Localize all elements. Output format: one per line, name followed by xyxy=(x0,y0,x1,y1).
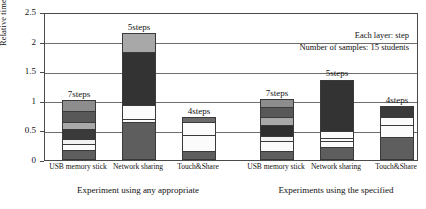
bar xyxy=(260,99,294,160)
group-caption: Experiments using the specified xyxy=(236,185,426,195)
bar-segment xyxy=(63,122,95,129)
y-axis-tick-label: 0.5 xyxy=(10,126,36,135)
bar-segment xyxy=(321,147,353,159)
bar xyxy=(182,117,216,160)
y-axis-tick-label: 0 xyxy=(10,156,36,165)
bar-segment xyxy=(63,111,95,122)
y-axis-tick-label: 1.5 xyxy=(10,67,36,76)
bar-segment xyxy=(123,105,155,118)
bar-step-annotation: 5steps xyxy=(307,69,367,78)
bar-segment xyxy=(123,52,155,106)
group-caption: Experiment using any appropriate xyxy=(38,185,238,195)
bar-step-annotation: 7steps xyxy=(49,90,109,99)
bar-segment xyxy=(261,107,293,117)
stacked-bar-chart: Relative time taken 00.511.522.5 7steps5… xyxy=(0,0,426,209)
bar-segment xyxy=(381,137,413,159)
bar-step-annotation: 5steps xyxy=(109,23,169,32)
bar-segment xyxy=(381,107,413,118)
y-axis-tick-label: 2 xyxy=(10,38,36,47)
bar-segment xyxy=(381,117,413,124)
gridline xyxy=(45,102,417,103)
legend-note-samples: Number of samples: 15 students xyxy=(299,41,409,53)
bar-segment xyxy=(183,122,215,135)
bar-segment xyxy=(381,125,413,138)
bar xyxy=(122,33,156,160)
bar xyxy=(62,100,96,160)
bar-segment xyxy=(321,131,353,138)
bar-segment xyxy=(63,129,95,139)
legend: Each layer: step Number of samples: 15 s… xyxy=(299,29,409,53)
bar-segment xyxy=(261,125,293,136)
bar-segment xyxy=(123,122,155,159)
bar-segment xyxy=(261,117,293,125)
bar-segment xyxy=(183,135,215,151)
y-axis-tick-label: 2.5 xyxy=(10,8,36,17)
bar-segment xyxy=(321,81,353,132)
plot-area: 7steps5steps4steps7steps5steps4steps Eac… xyxy=(44,13,418,161)
x-axis-category-label: Touch&Share xyxy=(354,163,426,171)
bar-step-annotation: 4steps xyxy=(367,96,426,105)
bar-segment xyxy=(261,141,293,151)
gridline xyxy=(45,132,417,133)
bar xyxy=(320,80,354,161)
x-axis-category-label: Touch&Share xyxy=(156,163,240,171)
y-axis-tick-label: 1 xyxy=(10,97,36,106)
bar-segment xyxy=(123,34,155,52)
bar-step-annotation: 7steps xyxy=(247,89,307,98)
bar-segment xyxy=(183,151,215,159)
bar-segment xyxy=(63,150,95,159)
bar-segment xyxy=(261,151,293,159)
bar xyxy=(380,106,414,160)
bar-segment xyxy=(63,144,95,151)
bar-segment xyxy=(261,100,293,107)
legend-note-layer: Each layer: step xyxy=(299,29,409,41)
bar-step-annotation: 4steps xyxy=(169,107,229,116)
bar-segment xyxy=(63,101,95,111)
y-axis-title: Relative time taken xyxy=(0,0,8,52)
y-axis-tick-mark xyxy=(40,161,44,162)
